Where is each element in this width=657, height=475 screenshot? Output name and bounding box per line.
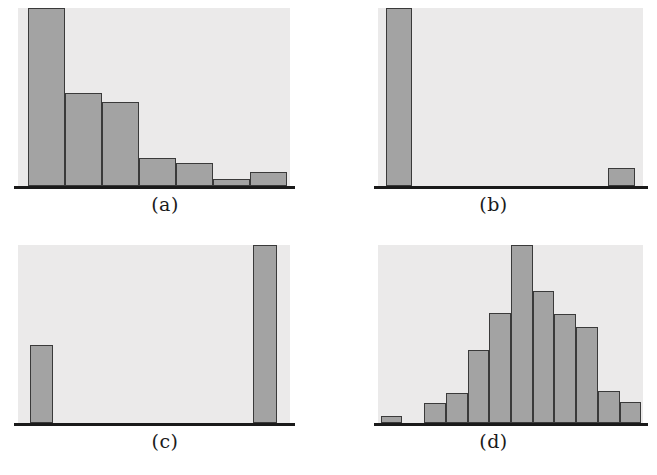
histogram-bar xyxy=(424,403,446,423)
histogram-bar xyxy=(176,163,213,186)
histogram-bar xyxy=(446,393,468,423)
bar-group-d xyxy=(378,245,643,423)
histogram-bar xyxy=(253,245,277,423)
histogram-panel-a: (a) xyxy=(0,0,330,237)
histogram-panel-b: (b) xyxy=(330,0,657,237)
histogram-panel-c: (c) xyxy=(0,237,330,475)
histogram-bar xyxy=(511,245,533,423)
histogram-bar xyxy=(213,179,250,186)
histogram-bar xyxy=(489,313,511,423)
histogram-bar xyxy=(533,291,555,423)
histogram-bar xyxy=(386,8,413,186)
histogram-bar xyxy=(598,391,620,423)
panel-caption-b: (b) xyxy=(330,193,657,215)
histogram-bar xyxy=(554,314,576,423)
histogram-bar xyxy=(65,93,102,186)
bar-group-b xyxy=(378,8,643,186)
panel-caption-d: (d) xyxy=(330,430,657,452)
bar-group-c xyxy=(18,245,290,423)
baseline-axis-b xyxy=(374,186,648,189)
histogram-bar xyxy=(576,327,598,423)
histogram-bar xyxy=(102,102,139,186)
baseline-axis-d xyxy=(374,423,648,426)
histogram-bar xyxy=(30,345,53,423)
histogram-bar xyxy=(250,172,287,186)
baseline-axis-a xyxy=(14,186,295,189)
histogram-bar xyxy=(139,158,176,186)
histogram-bar xyxy=(381,416,403,423)
histogram-bar xyxy=(620,402,642,423)
histogram-panel-d: (d) xyxy=(330,237,657,475)
histogram-bar xyxy=(28,8,65,186)
baseline-axis-c xyxy=(14,423,295,426)
histogram-figure: (a) (b) (c) (d) xyxy=(0,0,657,475)
bar-group-a xyxy=(18,8,290,186)
panel-caption-a: (a) xyxy=(0,193,330,215)
panel-caption-c: (c) xyxy=(0,430,330,452)
histogram-bar xyxy=(468,350,490,423)
histogram-bar xyxy=(608,168,635,186)
